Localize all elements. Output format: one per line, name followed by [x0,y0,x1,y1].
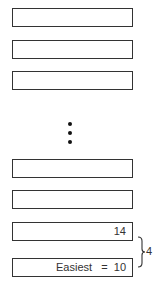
level-box-14: 14 [12,222,133,241]
ellipsis-dot [68,131,72,135]
level-box-1 [12,8,133,27]
ellipsis-dot [68,122,72,126]
level-box-5 [12,190,133,209]
level-box-easiest: Easiest = 10 [12,258,133,277]
easiest-label: Easiest = 10 [56,260,126,275]
level-box-3 [12,71,133,90]
ellipsis-dot [68,140,72,144]
level-box-2 [12,40,133,59]
level-box-4 [12,159,133,178]
level-box-label: 14 [114,224,126,239]
brace-difference-label: 4 [146,244,152,258]
